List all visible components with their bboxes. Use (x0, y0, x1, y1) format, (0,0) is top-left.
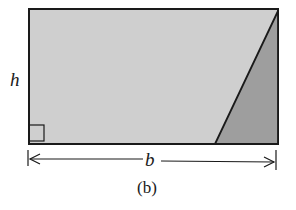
base-label: b (145, 149, 155, 171)
height-label: h (10, 69, 20, 91)
figure-caption: (b) (137, 178, 157, 198)
